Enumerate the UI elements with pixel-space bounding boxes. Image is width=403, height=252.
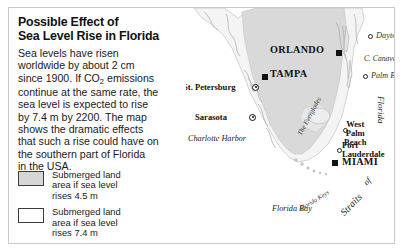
body-text-part2: emissions continue at the same rate, the… <box>18 72 159 172</box>
legend-label-7-4m: Submerged land area if sea level rises 7… <box>52 207 121 238</box>
lake-okeechobee <box>308 108 330 124</box>
legend-label-4-5m: Submerged land area if sea level rises 4… <box>52 170 121 201</box>
figure-container: Possible Effect of Sea Level Rise in Flo… <box>0 0 403 252</box>
text-column: Possible Effect of Sea Level Rise in Flo… <box>18 16 186 172</box>
co2-subscript: 2 <box>100 77 104 86</box>
map-graphic <box>186 8 394 243</box>
figure-body-text: Sea levels have risen worldwide by about… <box>18 47 186 172</box>
map-legend: Submerged land area if sea level rises 4… <box>18 170 186 244</box>
legend-swatch-7-4m <box>18 208 44 223</box>
legend-item-4-5m: Submerged land area if sea level rises 4… <box>18 170 186 201</box>
legend-item-7-4m: Submerged land area if sea level rises 7… <box>18 207 186 238</box>
figure-title: Possible Effect of Sea Level Rise in Flo… <box>18 16 186 43</box>
florida-map: ORLANDO TAMPA MIAMI St. Petersburg Saras… <box>186 8 394 243</box>
legend-swatch-4-5m <box>18 171 44 186</box>
